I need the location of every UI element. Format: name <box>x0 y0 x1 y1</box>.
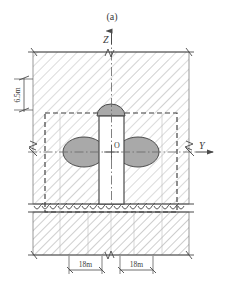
right-span-dimension: 18m <box>118 256 156 274</box>
depth-dimension-label: 6.5m <box>13 87 22 102</box>
left-span-label: 18m <box>79 260 93 269</box>
z-axis-label: Z <box>103 34 109 45</box>
cross-section-drawing: (a) <box>0 0 225 286</box>
right-span-label: 18m <box>130 260 144 269</box>
figure-container: (a) <box>0 0 225 286</box>
depth-dimension: 6.5m <box>13 76 33 112</box>
y-axis-label: Y <box>199 140 206 151</box>
origin-label: O <box>114 141 120 150</box>
left-span-dimension: 18m <box>67 256 105 274</box>
figure-caption: (a) <box>106 11 117 23</box>
